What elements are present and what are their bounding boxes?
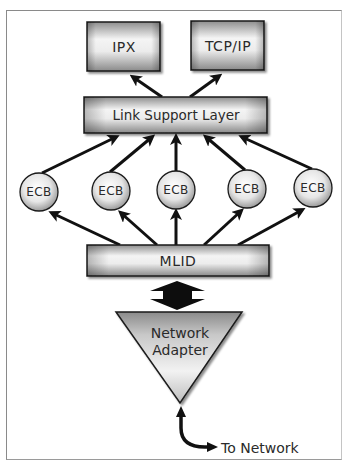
tcpip-label: TCP/IP	[204, 38, 251, 54]
arrow-to-ipx	[133, 77, 162, 97]
ecb-node-4: ECB	[228, 170, 266, 208]
arrows-lsl-to-protocols	[133, 76, 219, 97]
ecb-label-2: ECB	[98, 184, 124, 198]
link-support-layer-label: Link Support Layer	[112, 107, 240, 123]
ecb-node-5: ECB	[294, 169, 332, 207]
to-network-label: To Network	[220, 440, 300, 456]
ecb-node-2: ECB	[92, 172, 130, 210]
ecb-node-1: ECB	[20, 173, 58, 211]
ecb-label-4: ECB	[234, 182, 260, 196]
ecb-label-5: ECB	[300, 181, 326, 195]
mlid-label: MLID	[160, 253, 197, 269]
arrow-to-tcpip	[190, 76, 219, 97]
ecb-circles: ECB ECB ECB ECB ECB	[20, 169, 332, 211]
ecb-label-1: ECB	[26, 185, 52, 199]
ecb-label-3: ECB	[163, 183, 189, 197]
ipx-label: IPX	[112, 39, 136, 55]
network-adapter-label-line2: Adapter	[152, 342, 208, 358]
bidirectional-arrow-icon	[150, 281, 205, 310]
ecb-node-3: ECB	[157, 171, 195, 209]
diagram-canvas: IPX TCP/IP Link Support Layer ECB ECB EC…	[0, 0, 348, 467]
arrows-mlid-to-ecb	[52, 210, 302, 245]
to-network-arrow	[176, 406, 218, 452]
network-adapter-label-line1: Network	[151, 325, 210, 341]
arrows-ecb-to-lsl	[42, 137, 312, 173]
